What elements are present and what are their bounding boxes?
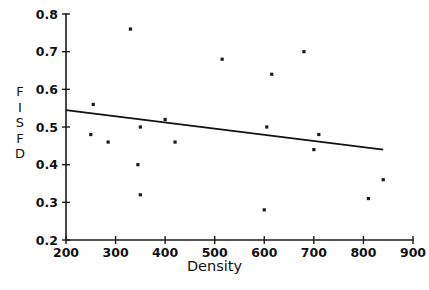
x-tick-label: 200 (53, 245, 79, 260)
axes (66, 14, 413, 240)
data-point (89, 133, 92, 136)
data-point (136, 163, 139, 166)
x-tick-label: 500 (202, 245, 228, 260)
data-point (221, 58, 224, 61)
x-tick-label: 600 (251, 245, 277, 260)
data-point (129, 27, 132, 30)
data-point (317, 133, 320, 136)
y-tick-label: 0.3 (36, 195, 58, 210)
data-point (92, 103, 95, 106)
data-point (367, 197, 370, 200)
y-tick-label: 0.5 (36, 120, 58, 135)
x-tick-label: 800 (350, 245, 376, 260)
data-point (302, 50, 305, 53)
data-point (139, 193, 142, 196)
scatter-plot-figure: F I S F D Density 0.20.30.40.50.60.70.8 … (0, 0, 429, 290)
y-tick-label: 0.4 (36, 157, 58, 172)
data-point (263, 208, 266, 211)
regression-line (66, 110, 383, 150)
data-points (89, 27, 385, 211)
data-point (265, 125, 268, 128)
x-tick-label: 900 (400, 245, 426, 260)
y-tick-label: 0.8 (36, 7, 58, 22)
y-tick-label: 0.7 (36, 44, 58, 59)
data-point (270, 73, 273, 76)
x-tick-label: 300 (103, 245, 129, 260)
x-tick-label: 400 (152, 245, 178, 260)
y-tick-label: 0.6 (36, 82, 58, 97)
data-point (173, 140, 176, 143)
plot-canvas: 0.20.30.40.50.60.70.8 200300400500600700… (0, 0, 429, 290)
data-point (164, 118, 167, 121)
x-tick-label: 700 (301, 245, 327, 260)
data-point (107, 140, 110, 143)
y-axis-ticks: 0.20.30.40.50.60.70.8 (36, 7, 70, 248)
data-point (312, 148, 315, 151)
regression-line-segment (66, 110, 383, 150)
data-point (382, 178, 385, 181)
data-point (139, 125, 142, 128)
